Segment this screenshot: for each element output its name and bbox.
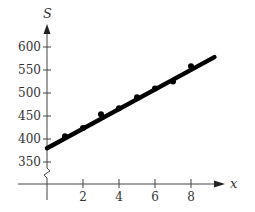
data-point — [116, 105, 122, 111]
data-point — [152, 85, 158, 91]
y-tick-label: 350 — [18, 155, 41, 169]
x-tick-label: 2 — [79, 190, 87, 204]
ticks: 3504004505005506002468 — [18, 40, 195, 204]
scatter-chart: 3504004505005506002468 S x — [0, 0, 255, 212]
y-tick-label: 550 — [18, 63, 41, 77]
axes — [18, 24, 225, 200]
y-tick-label: 450 — [18, 109, 41, 123]
x-axis-label: x — [230, 176, 238, 191]
x-tick-label: 4 — [115, 190, 123, 204]
fitted-line — [47, 57, 214, 148]
data-point — [62, 133, 68, 139]
regression-line — [47, 57, 214, 148]
y-axis-label: S — [43, 6, 52, 21]
y-tick-label: 600 — [18, 40, 41, 54]
y-axis-arrow-icon — [44, 24, 51, 34]
data-point — [170, 79, 176, 85]
y-tick-label: 500 — [18, 86, 41, 100]
data-point — [188, 63, 194, 69]
data-points — [62, 63, 194, 139]
x-axis-arrow-icon — [214, 181, 225, 188]
data-point — [134, 94, 140, 100]
y-tick-label: 400 — [18, 132, 41, 146]
x-tick-label: 8 — [187, 190, 195, 204]
x-tick-label: 6 — [151, 190, 159, 204]
data-point — [98, 111, 104, 117]
data-point — [80, 125, 86, 131]
